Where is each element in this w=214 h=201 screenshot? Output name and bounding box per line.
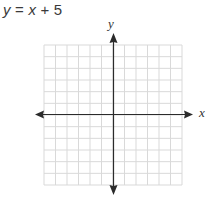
- x-axis-label: x: [199, 105, 205, 121]
- x-axis-right-arrow-icon: [184, 111, 193, 119]
- y-axis-down-arrow-icon: [110, 185, 118, 195]
- y-axis-label: y: [108, 16, 114, 32]
- x-axis-left-arrow-icon: [35, 111, 44, 119]
- y-axis-up-arrow-icon: [110, 33, 118, 43]
- coordinate-plane[interactable]: [0, 0, 214, 201]
